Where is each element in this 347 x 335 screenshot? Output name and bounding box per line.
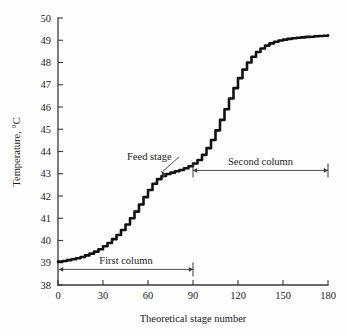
chart-figure: 38394041424344454647484950 0306090120150… xyxy=(0,0,347,335)
axes xyxy=(58,18,328,285)
y-tick-label-49: 49 xyxy=(41,35,52,46)
second-column-annotation: Second column xyxy=(193,156,328,178)
second-column-left-arrow-icon xyxy=(193,168,197,173)
first-column-right-arrow-icon xyxy=(189,267,193,272)
second-column-right-arrow-icon xyxy=(324,168,328,173)
y-tick-label-39: 39 xyxy=(41,257,52,268)
temperature-profile-chart: 38394041424344454647484950 0306090120150… xyxy=(0,0,347,335)
first-column-label: First column xyxy=(99,255,153,266)
x-tick-label-90: 90 xyxy=(188,290,199,301)
x-tick-label-0: 0 xyxy=(55,290,60,301)
y-axis-title: Temperature, °C xyxy=(11,117,22,186)
x-tick-label-120: 120 xyxy=(230,290,246,301)
y-tick-label-46: 46 xyxy=(41,102,52,113)
y-axis-ticks: 38394041424344454647484950 xyxy=(41,13,64,291)
y-tick-label-45: 45 xyxy=(41,124,52,135)
y-tick-label-48: 48 xyxy=(41,57,52,68)
x-axis-ticks: 0306090120150180 xyxy=(55,280,336,301)
y-tick-label-44: 44 xyxy=(41,146,52,157)
y-tick-label-40: 40 xyxy=(41,235,52,246)
x-axis-title: Theoretical stage number xyxy=(140,313,247,324)
x-tick-label-60: 60 xyxy=(143,290,154,301)
y-tick-label-43: 43 xyxy=(41,168,52,179)
y-tick-label-47: 47 xyxy=(41,79,52,90)
temperature-curve xyxy=(58,35,328,261)
y-tick-label-38: 38 xyxy=(41,280,52,291)
feed-stage-label: Feed stage xyxy=(127,151,172,162)
first-column-left-arrow-icon xyxy=(59,267,63,272)
second-column-label: Second column xyxy=(228,156,294,167)
x-tick-label-150: 150 xyxy=(275,290,291,301)
y-tick-label-42: 42 xyxy=(41,191,52,202)
y-tick-label-50: 50 xyxy=(41,13,52,24)
y-tick-label-41: 41 xyxy=(41,213,52,224)
x-tick-label-30: 30 xyxy=(98,290,109,301)
x-tick-label-180: 180 xyxy=(320,290,336,301)
